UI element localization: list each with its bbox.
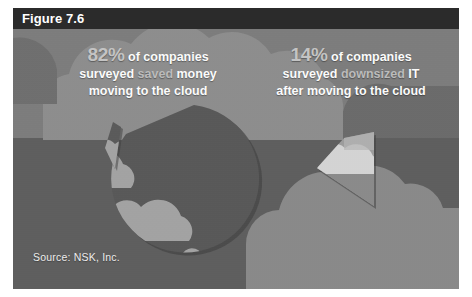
stat-right-line2-post: IT: [405, 67, 420, 81]
source-attribution: Source: NSK, Inc.: [33, 251, 120, 263]
stat-block-downsized-it: 14% of companies surveyed downsized IT a…: [251, 46, 451, 100]
stat-block-saved-money: 82% of companies surveyed saved money mo…: [43, 46, 253, 100]
stat-right-percent: 14%: [290, 44, 327, 65]
stat-left-line-3: moving to the cloud: [43, 83, 253, 100]
stat-left-emphasis: saved: [138, 67, 173, 81]
figure-label: Figure 7.6: [22, 11, 84, 26]
stat-right-line-1: 14% of companies: [251, 46, 451, 66]
stat-left-lead: of companies: [125, 50, 209, 64]
stat-right-line2-pre: surveyed: [283, 67, 341, 81]
stat-right-line-3: after moving to the cloud: [251, 83, 451, 100]
stat-right-line-2: surveyed downsized IT: [251, 66, 451, 83]
stat-left-line2-pre: surveyed: [79, 67, 137, 81]
stat-left-line-1: 82% of companies: [43, 46, 253, 66]
stat-right-emphasis: downsized: [341, 67, 405, 81]
stat-left-line-2: surveyed saved money: [43, 66, 253, 83]
stat-right-lead: of companies: [328, 50, 412, 64]
stat-left-line2-post: money: [173, 67, 217, 81]
figure-header-bar: Figure 7.6: [13, 8, 459, 29]
stat-left-percent: 82%: [87, 44, 124, 65]
figure-container: Figure 7.6 82% of companies surveyed sav…: [13, 8, 459, 289]
